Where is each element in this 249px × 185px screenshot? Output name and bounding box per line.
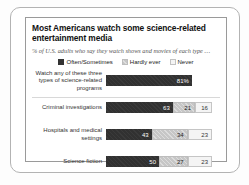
row-label-hospitals-medical: Hospitals and medical settings	[32, 127, 102, 142]
bar-segment-crime-hardly: 21	[173, 102, 195, 113]
row-separator	[32, 97, 220, 98]
bar-segment-crime-never: 16	[195, 102, 212, 113]
chart-subtitle: % of U.S. adults who say they watch show…	[32, 47, 220, 54]
bar-track-hospitals-medical: 43 34 23	[106, 129, 212, 140]
legend-swatch-hardly-ever-icon	[122, 59, 128, 65]
legend-item-hardly-ever: Hardly ever	[122, 59, 161, 65]
legend-swatch-never-icon	[170, 59, 176, 65]
bar-row-science-fiction: Science fiction 50 27 23	[32, 156, 220, 167]
legend-swatch-often-sometimes-icon	[58, 59, 64, 65]
bar-track-watch-any: 81%	[106, 75, 212, 86]
legend-item-often-sometimes: Often/Sometimes	[58, 59, 112, 65]
chart-title: Most Americans watch some science-relate…	[32, 24, 220, 44]
bar-segment-hosp-often: 43	[106, 129, 152, 140]
row-label-science-fiction: Science fiction	[32, 158, 102, 166]
chart-legend: Often/Sometimes Hardly ever Never	[32, 59, 220, 65]
bar-segment-scifi-hardly: 27	[159, 156, 188, 167]
legend-label-never: Never	[178, 59, 194, 65]
bar-segment-crime-often: 63	[106, 102, 173, 113]
bar-track-science-fiction: 50 27 23	[106, 156, 212, 167]
bar-row-watch-any: Watch any of these three types of scienc…	[32, 70, 220, 93]
bar-segment-hosp-hardly: 34	[152, 129, 188, 140]
bar-segment-scifi-often: 50	[106, 156, 159, 167]
bar-segment-scifi-never: 23	[188, 156, 212, 167]
bar-segment-watch-any-often: 81%	[106, 75, 192, 86]
chart-rows: Watch any of these three types of scienc…	[32, 70, 220, 168]
row-label-watch-any: Watch any of these three types of scienc…	[32, 70, 102, 93]
chart-card: Most Americans watch some science-relate…	[25, 17, 227, 162]
bar-segment-hosp-never: 23	[188, 129, 212, 140]
bar-row-hospitals-medical: Hospitals and medical settings 43 34 23	[32, 127, 220, 142]
bar-track-criminal-investigations: 63 21 16	[106, 102, 212, 113]
legend-label-often-sometimes: Often/Sometimes	[66, 59, 112, 65]
legend-label-hardly-ever: Hardly ever	[130, 59, 161, 65]
row-label-criminal-investigations: Criminal investigations	[32, 104, 102, 112]
legend-item-never: Never	[170, 59, 194, 65]
bar-row-criminal-investigations: Criminal investigations 63 21 16	[32, 102, 220, 113]
